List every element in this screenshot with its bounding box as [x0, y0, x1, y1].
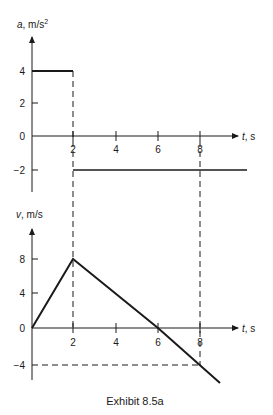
a-axis-label: a, m/s2 — [17, 18, 48, 30]
a-x-tick-label: 6 — [155, 144, 161, 155]
v-y-tick-label: 8 — [19, 254, 25, 265]
exhibit-figure: a, m/s2 t, s 4 2 0 −2 2 4 6 8 v, m/s — [0, 0, 273, 415]
figure-caption: Exhibit 8.5a — [106, 395, 164, 407]
v-axis-label: v, m/s — [16, 209, 43, 220]
acceleration-chart: a, m/s2 t, s 4 2 0 −2 2 4 6 8 — [14, 18, 256, 192]
a-x-axis-label: t, s — [242, 131, 255, 142]
v-x-tick-label: 2 — [70, 337, 76, 348]
v-y-tick-label: −4 — [14, 360, 26, 371]
v-y-tick-label: 4 — [19, 288, 25, 299]
a-y-tick-label: −2 — [14, 165, 26, 176]
v-x-tick-label: 8 — [197, 337, 203, 348]
v-x-tick-label: 4 — [113, 337, 119, 348]
a-y-tick-label: 4 — [19, 66, 25, 77]
v-series-line — [32, 259, 220, 383]
a-x-tick-label: 4 — [113, 144, 119, 155]
a-y-tick-label: 2 — [19, 98, 25, 109]
a-y-tick-label: 0 — [19, 131, 25, 142]
v-x-tick-label: 6 — [155, 337, 161, 348]
velocity-chart: v, m/s t, s 8 4 0 −4 2 4 6 8 — [14, 209, 256, 383]
v-y-tick-label: 0 — [19, 323, 25, 334]
v-x-axis-label: t, s — [242, 323, 255, 334]
